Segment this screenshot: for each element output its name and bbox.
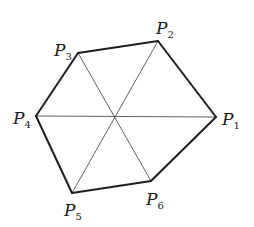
edge-p2-p3 (78, 41, 158, 53)
edge-p5-p6 (72, 181, 151, 193)
vertex-subscript: 5 (75, 211, 81, 222)
diagram-canvas: P1P2P3P4P5P6 (0, 0, 254, 227)
vertex-label-p2: P2 (155, 18, 174, 40)
vertex-label-p3: P3 (53, 40, 72, 62)
vertex-label-p4: P4 (12, 108, 31, 130)
vertex-letter: P (12, 108, 25, 128)
vertex-subscript: 1 (233, 120, 239, 131)
vertex-label-p6: P6 (145, 189, 164, 211)
vertex-label-p5: P5 (63, 200, 82, 222)
vertex-labels: P1P2P3P4P5P6 (12, 18, 240, 222)
vertex-subscript: 3 (65, 51, 71, 62)
vertex-letter: P (145, 189, 158, 209)
hexagon-diagram: P1P2P3P4P5P6 (0, 0, 254, 227)
vertex-subscript: 2 (167, 29, 173, 40)
vertex-letter: P (155, 18, 168, 38)
diagonal-lines (36, 41, 216, 193)
vertex-label-p1: P1 (221, 109, 240, 131)
edge-p3-p4 (36, 53, 78, 116)
vertex-letter: P (53, 40, 66, 60)
vertex-subscript: 4 (24, 119, 30, 130)
vertex-subscript: 6 (157, 200, 163, 211)
edge-p4-p5 (36, 116, 72, 193)
edge-p1-p2 (158, 41, 216, 117)
vertex-letter: P (63, 200, 76, 220)
vertex-letter: P (221, 109, 234, 129)
diagonal-p1-p4 (36, 116, 216, 117)
edge-p6-p1 (151, 117, 216, 181)
